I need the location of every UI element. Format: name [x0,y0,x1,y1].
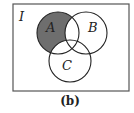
set-c-label: C [62,58,72,73]
set-b-label: B [87,20,98,35]
universe-label: I [18,9,25,24]
set-a-label: A [45,20,55,35]
figure-caption: (b) [0,94,134,108]
